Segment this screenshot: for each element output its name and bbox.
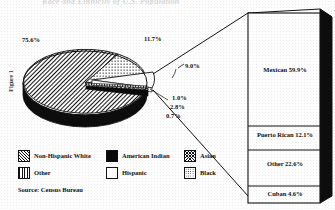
bar-segment-other[interactable]	[248, 150, 320, 186]
callout-black: 11.7%	[144, 35, 162, 42]
legend-label: Hispanic	[122, 169, 147, 176]
swatch-dotted-icon	[184, 167, 196, 179]
callout-tick-thin-slices	[150, 89, 168, 100]
bar-label-other: Other 22.6%	[246, 160, 324, 167]
callout-non-hispanic-white: 75.6%	[22, 36, 40, 43]
swatch-cross-hatch-icon	[184, 150, 196, 162]
callout-american-indian: 0.7%	[166, 112, 181, 119]
legend-item-asian[interactable]: Asian	[184, 150, 232, 162]
callout-other: 1.0%	[172, 94, 187, 101]
legend-item-hispanic[interactable]: Hispanic	[106, 167, 184, 179]
legend-item-black[interactable]: Black	[184, 167, 232, 179]
source-note: Source: Census Bureau	[18, 186, 83, 193]
bar-label-cuban: Cuban 4.6%	[246, 190, 324, 197]
legend-item-american-indian[interactable]: American Indian	[106, 150, 184, 162]
legend-label: Asian	[200, 152, 216, 159]
swatch-solid-black-icon	[106, 150, 118, 162]
callout-asian: 2.8%	[170, 103, 185, 110]
callout-hispanic: 9.0%	[185, 62, 200, 69]
callout-tick-hispanic	[178, 64, 184, 68]
leader-line-top	[153, 13, 248, 74]
bar-side-face	[320, 9, 332, 203]
legend-item-non-hispanic-white[interactable]: Non-Hispanic White	[18, 150, 106, 162]
swatch-vertical-lines-icon	[18, 167, 30, 179]
callout-arc-hispanic	[172, 69, 176, 78]
legend-row: Non-Hispanic White American Indian Asian	[18, 147, 233, 164]
figure-canvas: Race and Ethnicity of U.S. Population Fi…	[0, 0, 335, 210]
legend-label: Non-Hispanic White	[34, 152, 91, 159]
legend-item-other[interactable]: Other	[18, 167, 106, 179]
legend-label: American Indian	[122, 152, 170, 159]
legend-label: Other	[34, 169, 51, 176]
swatch-diagonal-hatch-icon	[18, 150, 30, 162]
bar-label-puerto-rican: Puerto Rican 12.1%	[246, 131, 324, 138]
legend-label: Black	[200, 169, 216, 176]
legend: Non-Hispanic White American Indian Asian…	[18, 147, 233, 181]
breakout-stacked-bar	[248, 9, 332, 203]
bar-label-mexican: Mexican 59.9%	[246, 66, 324, 73]
swatch-white-icon	[106, 167, 118, 179]
legend-row: Other Hispanic Black	[18, 164, 233, 181]
bar-segment-puerto-rican[interactable]	[248, 126, 320, 150]
